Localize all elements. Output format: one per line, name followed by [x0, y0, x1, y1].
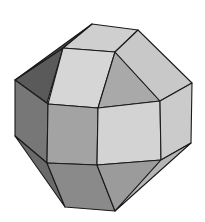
face-front-center	[97, 101, 161, 165]
polyhedron-figure	[0, 0, 205, 222]
face-front-left	[47, 104, 98, 165]
